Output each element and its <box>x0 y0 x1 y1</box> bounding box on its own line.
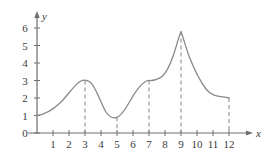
x-tick-label-5: 5 <box>109 139 125 150</box>
y-tick-label-3: 3 <box>19 76 31 87</box>
y-tick-label-6: 6 <box>19 23 31 34</box>
x-tick-label-2: 2 <box>61 139 77 150</box>
y-tick-label-2: 2 <box>19 93 31 104</box>
y-tick-label-4: 4 <box>19 58 31 69</box>
y-tick-label-5: 5 <box>19 41 31 52</box>
y-axis-label: y <box>42 11 47 22</box>
x-tick-label-12: 12 <box>221 139 237 150</box>
x-tick-label-1: 1 <box>45 139 61 150</box>
x-tick-label-8: 8 <box>157 139 173 150</box>
x-tick-label-3: 3 <box>77 139 93 150</box>
dashed-drop-lines <box>85 32 229 134</box>
x-tick-label-11: 11 <box>205 139 221 150</box>
y-axis-arrow-icon <box>34 11 39 18</box>
data-curve <box>37 32 229 118</box>
x-tick-label-9: 9 <box>173 139 189 150</box>
x-tick-label-6: 6 <box>125 139 141 150</box>
x-tick-label-4: 4 <box>93 139 109 150</box>
x-tick-label-10: 10 <box>189 139 205 150</box>
x-axis-arrow-icon <box>246 130 253 135</box>
y-tick-label-1: 1 <box>19 111 31 122</box>
graph-figure: 0 1 2 3 4 5 6 1 2 3 4 5 6 7 8 9 10 11 12… <box>0 0 275 156</box>
x-tick-label-7: 7 <box>141 139 157 150</box>
plot-canvas <box>0 0 275 156</box>
y-tick-label-0: 0 <box>19 128 31 139</box>
x-axis-label: x <box>256 128 261 139</box>
